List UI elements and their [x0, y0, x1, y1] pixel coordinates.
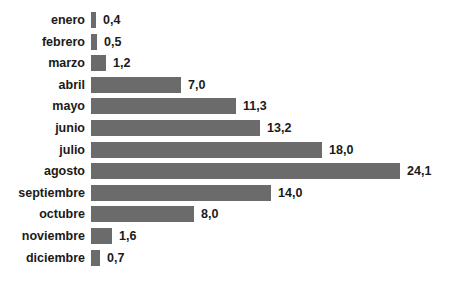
value-label: 8,0 — [201, 205, 218, 223]
category-label: julio — [59, 141, 85, 159]
category-label: agosto — [44, 162, 85, 180]
category-label: enero — [51, 11, 85, 29]
bar — [91, 98, 236, 114]
bar-row: octubre8,0 — [0, 205, 449, 223]
bar-row: diciembre0,7 — [0, 249, 449, 267]
bar — [91, 228, 112, 244]
value-label: 1,2 — [113, 54, 130, 72]
bar-row: enero0,4 — [0, 11, 449, 29]
bar — [91, 185, 271, 201]
value-label: 24,1 — [407, 162, 431, 180]
bar-row: junio13,2 — [0, 119, 449, 137]
bar — [91, 55, 106, 71]
value-label: 0,5 — [104, 33, 121, 51]
bar — [91, 250, 100, 266]
category-label: junio — [55, 119, 85, 137]
category-label: noviembre — [22, 227, 85, 245]
category-label: octubre — [39, 205, 85, 223]
bar — [91, 120, 260, 136]
bar — [91, 12, 96, 28]
category-label: abril — [59, 76, 85, 94]
bar-row: septiembre14,0 — [0, 184, 449, 202]
bar — [91, 34, 97, 50]
bar-row: abril7,0 — [0, 76, 449, 94]
bar-row: noviembre1,6 — [0, 227, 449, 245]
bar — [91, 77, 181, 93]
value-label: 1,6 — [119, 227, 136, 245]
value-label: 0,7 — [107, 249, 124, 267]
value-label: 7,0 — [188, 76, 205, 94]
bar-row: julio18,0 — [0, 141, 449, 159]
value-label: 11,3 — [243, 97, 267, 115]
value-label: 0,4 — [103, 11, 120, 29]
category-label: febrero — [42, 33, 85, 51]
category-label: marzo — [48, 54, 85, 72]
value-label: 14,0 — [278, 184, 302, 202]
bar-row: mayo11,3 — [0, 97, 449, 115]
value-label: 18,0 — [329, 141, 353, 159]
bar-row: agosto24,1 — [0, 162, 449, 180]
bar — [91, 206, 194, 222]
category-label: mayo — [52, 97, 85, 115]
category-label: septiembre — [18, 184, 85, 202]
bar — [91, 142, 322, 158]
bar-row: marzo1,2 — [0, 54, 449, 72]
value-label: 13,2 — [267, 119, 291, 137]
bar-row: febrero0,5 — [0, 33, 449, 51]
category-label: diciembre — [26, 249, 85, 267]
bar — [91, 163, 400, 179]
bar-chart: enero0,4febrero0,5marzo1,2abril7,0mayo11… — [0, 0, 449, 281]
